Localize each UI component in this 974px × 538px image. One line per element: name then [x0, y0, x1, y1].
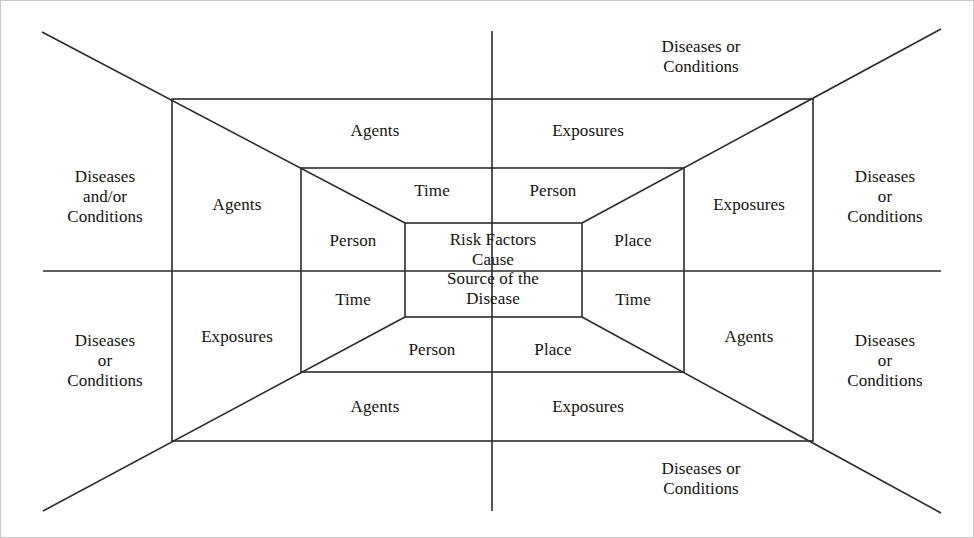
diagonal-bottom-left [43, 317, 405, 511]
diagram-canvas: Diseases and/or ConditionsDiseases or Co… [0, 0, 974, 538]
diagonal-bottom-right [582, 317, 941, 513]
perspective-line-art [1, 1, 974, 538]
line-group [42, 29, 941, 513]
inner-rectangle [405, 223, 582, 317]
diagonal-top-right [582, 29, 941, 223]
diagonal-top-left [42, 32, 405, 223]
